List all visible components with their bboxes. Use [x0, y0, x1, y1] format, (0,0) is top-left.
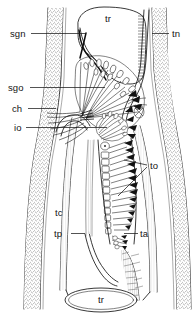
- label-tp: tp: [54, 228, 62, 239]
- label-tr-bottom: tr: [98, 294, 104, 305]
- label-tc: tc: [55, 207, 63, 218]
- label-ta: ta: [140, 228, 149, 239]
- label-sgn: sgn: [10, 28, 26, 39]
- label-ch: ch: [12, 103, 22, 114]
- label-io: io: [14, 122, 22, 133]
- label-to: to: [150, 160, 158, 171]
- internal-opening-io: [96, 106, 137, 141]
- anatomical-figure: tr sgn tn sgo ch io to tc tp ta tr: [0, 0, 195, 317]
- label-tr-top: tr: [105, 13, 111, 24]
- figure-illustration: tr sgn tn sgo ch io to tc tp ta tr: [0, 0, 195, 317]
- left-body-wall: [24, 8, 66, 309]
- label-tn: tn: [172, 28, 180, 39]
- label-sgo: sgo: [8, 82, 24, 93]
